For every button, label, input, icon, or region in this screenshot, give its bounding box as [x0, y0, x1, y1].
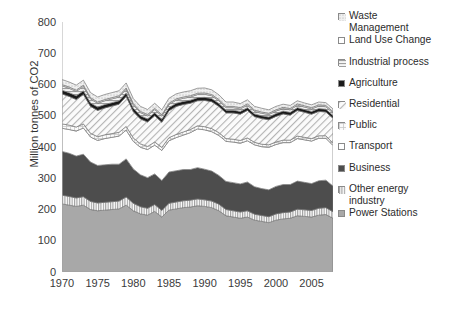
legend-swatch-icon: [338, 165, 345, 172]
legend-label: Business: [349, 162, 390, 174]
x-tick-label: 1980: [113, 278, 153, 289]
x-tick-label: 2005: [292, 278, 332, 289]
legend-swatch-icon: [338, 210, 345, 217]
legend-label: Waste Management: [349, 10, 408, 34]
legend-label: Industrial process: [349, 56, 429, 68]
legend-item-other-energy-industry[interactable]: Other energy industry: [338, 183, 465, 207]
area-series-canvas: [62, 22, 333, 272]
x-tick-label: 1975: [78, 278, 118, 289]
plot-area: [62, 22, 333, 272]
legend-swatch-icon: [338, 143, 345, 150]
legend-swatch-icon: [338, 59, 345, 66]
x-tick-label: 1990: [185, 278, 225, 289]
legend-item-land-use-change[interactable]: Land Use Change: [338, 34, 465, 46]
legend-swatch-icon: [338, 13, 345, 20]
x-tick-label: 2000: [256, 278, 296, 289]
legend-item-agriculture[interactable]: Agriculture: [338, 77, 465, 89]
legend-item-business[interactable]: Business: [338, 162, 465, 174]
legend-label: Land Use Change: [349, 34, 431, 46]
x-tick-label: 1995: [220, 278, 260, 289]
legend-swatch-icon: [338, 122, 345, 129]
legend-swatch-icon: [338, 186, 345, 193]
legend-label: Other energy industry: [349, 183, 408, 207]
legend-swatch-icon: [338, 80, 345, 87]
legend-label: Agriculture: [349, 77, 398, 89]
legend-swatch-icon: [338, 101, 345, 108]
x-tick-label: 1985: [149, 278, 189, 289]
legend-item-transport[interactable]: Transport: [338, 140, 465, 152]
legend-item-industrial-process[interactable]: Industrial process: [338, 56, 465, 68]
legend-item-power-stations[interactable]: Power Stations: [338, 207, 465, 219]
legend-item-public[interactable]: Public: [338, 119, 465, 131]
chart-legend: Waste ManagementLand Use Change Industri…: [338, 10, 465, 219]
legend-label: Public: [349, 119, 377, 131]
legend-label: Transport: [349, 140, 392, 152]
legend-swatch-icon: [338, 37, 345, 44]
x-tick-label: 1970: [42, 278, 82, 289]
legend-label: Residential: [349, 98, 399, 110]
legend-item-waste-management[interactable]: Waste Management: [338, 10, 465, 34]
stacked-area-chart: Million tonnes of CO2 800700600500400300…: [0, 0, 465, 310]
legend-label: Power Stations: [349, 207, 418, 219]
legend-item-residential[interactable]: Residential: [338, 98, 465, 110]
